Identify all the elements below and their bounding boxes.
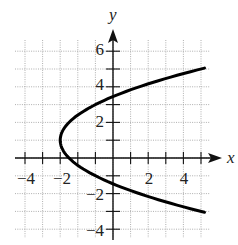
x-tick-label: −4 xyxy=(17,169,36,188)
y-axis-label: y xyxy=(107,5,117,24)
x-tick-label: −2 xyxy=(53,169,71,188)
x-axis-label: x xyxy=(226,148,235,167)
x-tick-label: 2 xyxy=(145,169,154,188)
x-tick-label: 4 xyxy=(180,169,189,188)
y-tick-label: 4 xyxy=(96,75,105,94)
y-tick-label: 6 xyxy=(96,40,105,59)
parabola-chart: x y −4 −2 2 4 6 4 2 −2 −4 xyxy=(0,0,238,245)
y-tick-label: −4 xyxy=(86,221,105,240)
y-tick-label: 2 xyxy=(96,112,105,131)
y-tick-label: −2 xyxy=(86,185,104,204)
